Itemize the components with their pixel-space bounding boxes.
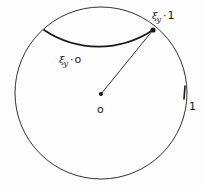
radius-segment <box>101 30 153 94</box>
figure-canvas <box>0 0 204 186</box>
xi-one-point <box>150 27 155 32</box>
label-xi-y-one: ξy·1 <box>152 10 175 24</box>
label-center-o: o <box>97 104 104 115</box>
boundary-tick <box>184 86 185 99</box>
xi-subscript: y <box>157 15 162 24</box>
xi-value: 1 <box>168 9 175 22</box>
label-unit-one: 1 <box>189 101 196 112</box>
label-xi-y-zero: ξy·o <box>59 54 81 68</box>
xi-value: o <box>75 53 82 66</box>
xi-subscript: y <box>64 59 69 68</box>
dot-operator: · <box>163 9 167 22</box>
dot-operator: · <box>70 53 74 66</box>
geometry-figure: ξy·1 ξy·o o 1 <box>0 0 204 186</box>
center-point <box>99 92 103 96</box>
geodesic-arc <box>44 30 153 47</box>
